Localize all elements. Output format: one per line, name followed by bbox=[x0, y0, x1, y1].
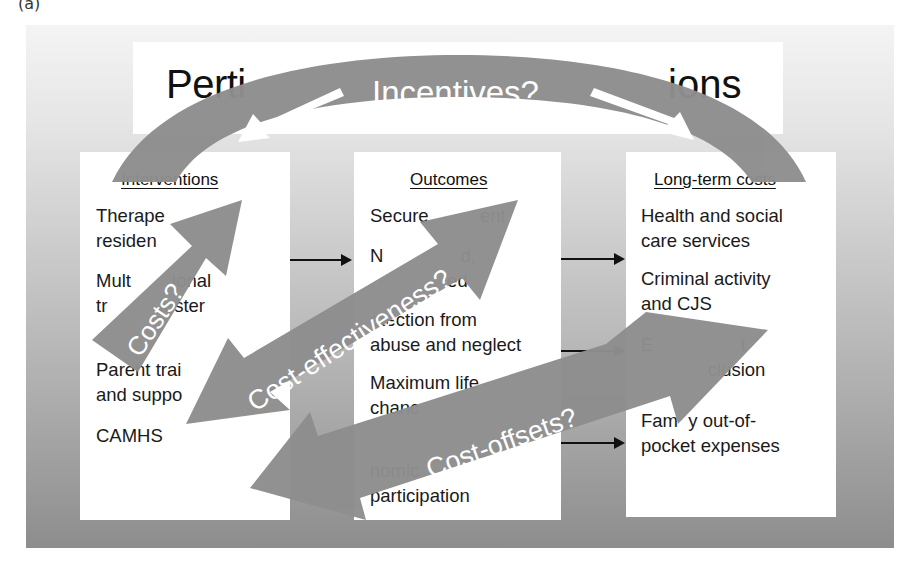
incentives-label: Incentives? bbox=[372, 74, 539, 112]
